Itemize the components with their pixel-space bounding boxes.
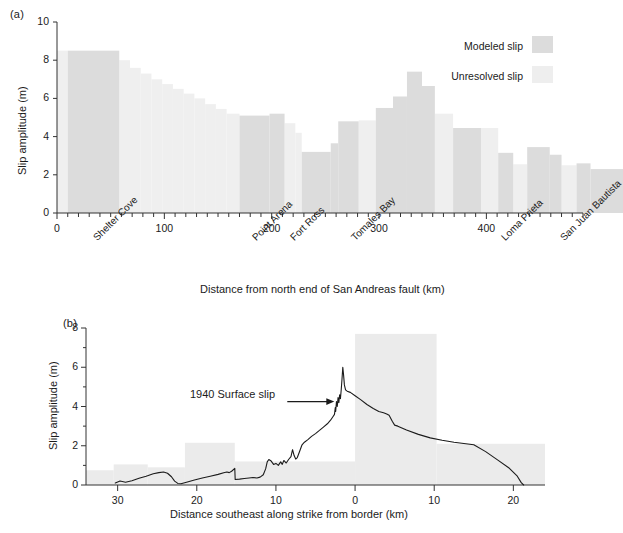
legend-modeled-swatch xyxy=(532,36,553,53)
bar xyxy=(185,443,235,485)
bar xyxy=(270,114,285,213)
bar xyxy=(453,128,481,213)
bar xyxy=(184,94,195,213)
y-tick-label: 6 xyxy=(33,91,49,103)
bar xyxy=(437,444,545,485)
y-tick-label: 0 xyxy=(33,206,49,218)
y-tick-label: 8 xyxy=(33,53,49,65)
x-tick-label: 100 xyxy=(152,222,176,234)
y-tick-label: 2 xyxy=(33,168,49,180)
bar xyxy=(422,86,435,213)
panel-a: (a) Slip amplitude (m) Distance from nor… xyxy=(0,0,605,300)
bar xyxy=(239,116,269,213)
bar xyxy=(355,334,437,485)
bar xyxy=(562,165,577,213)
bar xyxy=(498,153,513,213)
y-tick-label: 8 xyxy=(60,321,78,333)
unresolved-slip-bars xyxy=(86,334,545,485)
x-tick-label: 10 xyxy=(422,494,446,506)
bar xyxy=(57,51,68,213)
bar xyxy=(227,114,240,213)
bar xyxy=(359,120,376,213)
bar xyxy=(393,96,407,213)
y-tick-label: 10 xyxy=(33,15,49,27)
bar xyxy=(148,467,185,485)
bar xyxy=(119,60,130,213)
bar xyxy=(338,121,358,213)
bar xyxy=(331,143,339,213)
bar xyxy=(216,109,227,213)
legend-unresolved-swatch xyxy=(532,66,553,83)
x-tick-label: 30 xyxy=(106,494,130,506)
bar xyxy=(86,470,114,485)
bar xyxy=(481,128,498,213)
bar xyxy=(302,152,331,213)
bar xyxy=(68,51,120,213)
bar xyxy=(435,114,453,213)
y-tick-label: 2 xyxy=(60,439,78,451)
legend-modeled-label: Modeled slip xyxy=(413,40,523,52)
annotation-arrow-head xyxy=(326,398,334,405)
bar xyxy=(162,84,173,213)
panel-b: (b) Slip amplitude (m) Distance southeas… xyxy=(0,300,605,533)
bar xyxy=(130,68,141,213)
y-tick-label: 6 xyxy=(60,360,78,372)
legend-unresolved-label: Unresolved slip xyxy=(403,70,523,82)
bar xyxy=(550,155,562,213)
y-tick-label: 4 xyxy=(60,400,78,412)
y-tick-label: 0 xyxy=(60,478,78,490)
x-tick-label: 20 xyxy=(501,494,525,506)
bar xyxy=(205,104,216,213)
bar xyxy=(194,98,205,213)
x-tick-label: 20 xyxy=(185,494,209,506)
bar xyxy=(141,74,152,213)
bar xyxy=(173,89,184,213)
y-tick-label: 4 xyxy=(33,130,49,142)
bar xyxy=(407,72,422,213)
x-tick-label: 10 xyxy=(264,494,288,506)
x-tick-label: 0 xyxy=(343,494,367,506)
bar xyxy=(513,164,527,213)
bar xyxy=(151,79,162,213)
bar xyxy=(235,461,355,485)
x-tick-label: 400 xyxy=(474,222,498,234)
x-tick-label: 0 xyxy=(45,222,69,234)
bar xyxy=(295,133,301,213)
